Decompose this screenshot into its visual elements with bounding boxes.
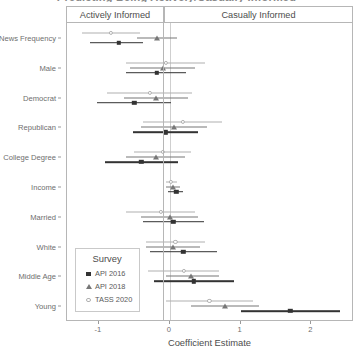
legend-title: Survey xyxy=(82,253,132,264)
x-axis-tick-label: -1 xyxy=(94,325,101,334)
facet-label-left: Actively Informed xyxy=(80,10,150,20)
y-axis-label-young: Young xyxy=(35,302,56,311)
estimate-marker xyxy=(180,120,184,124)
estimate-marker xyxy=(170,184,176,189)
estimate-marker xyxy=(182,269,186,273)
y-axis-tick xyxy=(58,97,61,98)
estimate-marker xyxy=(153,95,159,100)
estimate-marker xyxy=(174,190,178,194)
x-axis-tick-label: 1 xyxy=(237,325,241,334)
y-axis-label-income: Income xyxy=(31,182,56,191)
coefficient-plot-figure: Predicting Being Actively/Casually Infor… xyxy=(0,0,353,353)
x-axis-tick xyxy=(98,321,99,324)
y-axis-label-white: White xyxy=(37,242,56,251)
y-axis-label-news-frequency: News Frequency xyxy=(0,33,56,42)
y-axis-tick xyxy=(58,216,61,217)
y-axis-label-college-degree: College Degree xyxy=(3,153,56,162)
y-axis-label-middle-age: Middle Age xyxy=(18,272,56,281)
facet-divider xyxy=(163,23,164,321)
estimate-marker xyxy=(163,61,167,65)
estimate-marker xyxy=(109,31,113,35)
x-axis-tick-label: 2 xyxy=(308,325,312,334)
estimate-marker xyxy=(132,100,136,104)
estimate-marker xyxy=(155,70,159,74)
facet-strip-actively-informed: Actively Informed xyxy=(66,6,164,23)
legend-item-tass-2020[interactable]: TASS 2020 xyxy=(82,293,132,306)
x-axis-tick xyxy=(240,321,241,324)
estimate-marker xyxy=(139,160,143,164)
estimate-marker xyxy=(167,214,173,219)
estimate-marker xyxy=(171,219,175,223)
plot-panels: Actively Informed Casually Informed Surv… xyxy=(66,6,353,321)
y-axis-tick xyxy=(58,37,61,38)
x-axis-title: Coefficient Estimate xyxy=(66,337,353,348)
estimate-marker xyxy=(188,274,194,279)
y-axis-label-republican: Republican xyxy=(18,123,56,132)
estimate-marker xyxy=(181,249,185,253)
x-axis-tick xyxy=(310,321,311,324)
triangle-icon xyxy=(82,284,95,289)
facet-label-right: Casually Informed xyxy=(221,10,295,20)
legend-label: TASS 2020 xyxy=(95,295,132,304)
facet-strip-casually-informed: Casually Informed xyxy=(164,6,353,23)
y-axis-tick xyxy=(58,246,61,247)
y-axis-label-male: Male xyxy=(40,63,56,72)
x-axis: Coefficient Estimate -1012 xyxy=(66,321,353,353)
estimate-marker xyxy=(154,35,160,40)
legend-item-api-2018[interactable]: API 2018 xyxy=(82,280,132,293)
legend-label: API 2016 xyxy=(95,269,125,278)
estimate-marker xyxy=(170,244,176,249)
x-axis-tick-label: 0 xyxy=(167,325,171,334)
y-axis-tick xyxy=(58,306,61,307)
estimate-marker xyxy=(169,180,173,184)
y-axis-label-married: Married xyxy=(30,212,56,221)
estimate-marker xyxy=(148,90,152,94)
filled-square-icon xyxy=(82,272,95,276)
legend-label: API 2018 xyxy=(95,282,125,291)
estimate-marker xyxy=(288,309,292,313)
estimate-marker xyxy=(117,41,121,45)
chart-title: Predicting Being Actively/Casually Infor… xyxy=(0,0,353,2)
legend-item-api-2016[interactable]: API 2016 xyxy=(82,267,132,280)
estimate-marker xyxy=(171,125,177,130)
legend: SurveyAPI 2016API 2018TASS 2020 xyxy=(75,248,140,312)
y-axis-tick xyxy=(58,186,61,187)
y-axis-tick xyxy=(58,67,61,68)
estimate-marker xyxy=(222,304,228,309)
estimate-marker xyxy=(192,279,196,283)
estimate-marker xyxy=(207,299,211,303)
y-axis-labels: News FrequencyMaleDemocratRepublicanColl… xyxy=(0,6,62,321)
plot-area: SurveyAPI 2016API 2018TASS 2020 xyxy=(66,23,353,321)
y-axis-tick xyxy=(58,127,61,128)
estimate-marker xyxy=(173,239,177,243)
estimate-marker xyxy=(153,155,159,160)
estimate-marker xyxy=(158,210,162,214)
open-circle-icon xyxy=(82,298,95,302)
y-axis-tick xyxy=(58,157,61,158)
x-axis-tick xyxy=(169,321,170,324)
y-axis-label-democrat: Democrat xyxy=(23,93,56,102)
y-axis-tick xyxy=(58,276,61,277)
